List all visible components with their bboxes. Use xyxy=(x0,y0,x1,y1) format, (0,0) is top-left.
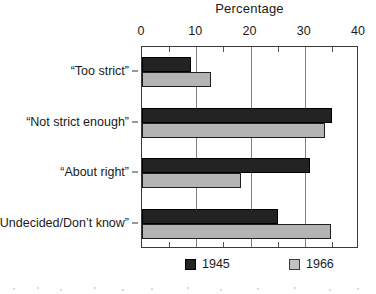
chart-legend: 19451966 xyxy=(141,256,358,274)
x-minor-tick xyxy=(169,242,170,247)
chart-title: Percentage xyxy=(141,1,358,17)
legend-item-1945: 1945 xyxy=(185,256,230,272)
bar-1945 xyxy=(142,57,191,72)
x-tick-label: 30 xyxy=(297,24,311,39)
legend-label: 1945 xyxy=(202,256,230,272)
x-minor-tick xyxy=(223,242,224,247)
x-tick-label: 40 xyxy=(351,24,365,39)
black-square-swatch xyxy=(185,259,196,270)
x-minor-tick xyxy=(169,47,170,52)
category-tick xyxy=(132,71,138,72)
x-tick-label: 20 xyxy=(243,24,257,39)
bar-1966 xyxy=(142,72,211,87)
bar-1945 xyxy=(142,158,310,173)
category-tick xyxy=(132,172,138,173)
plot-area xyxy=(141,46,358,248)
x-axis-tick-labels: 010203040 xyxy=(141,24,358,40)
bar-chart: Percentage 010203040 “Too strict”“Not st… xyxy=(0,0,376,294)
bar-1966 xyxy=(142,123,325,138)
category-label: “Undecided/Don’t know” xyxy=(0,215,129,230)
bar-1966 xyxy=(142,173,241,188)
category-axis-labels: “Too strict”“Not strict enough”“About ri… xyxy=(0,46,138,248)
bar-1966 xyxy=(142,224,331,239)
x-minor-tick xyxy=(332,242,333,247)
x-gridline xyxy=(305,47,306,247)
x-minor-tick xyxy=(278,47,279,52)
legend-label: 1966 xyxy=(306,256,334,272)
category-label: “About right” xyxy=(60,165,129,180)
bar-1945 xyxy=(142,108,332,123)
x-minor-tick xyxy=(278,242,279,247)
category-label: “Not strict enough” xyxy=(26,114,129,129)
legend-item-1966: 1966 xyxy=(289,256,334,272)
category-tick xyxy=(132,222,138,223)
category-label: “Too strict” xyxy=(71,64,129,79)
x-tick-label: 0 xyxy=(138,24,145,39)
x-tick-label: 10 xyxy=(188,24,202,39)
gray-square-swatch xyxy=(289,259,300,270)
x-minor-tick xyxy=(332,47,333,52)
category-tick xyxy=(132,121,138,122)
bar-1945 xyxy=(142,209,278,224)
x-minor-tick xyxy=(223,47,224,52)
scan-artifact-strip xyxy=(0,284,376,294)
